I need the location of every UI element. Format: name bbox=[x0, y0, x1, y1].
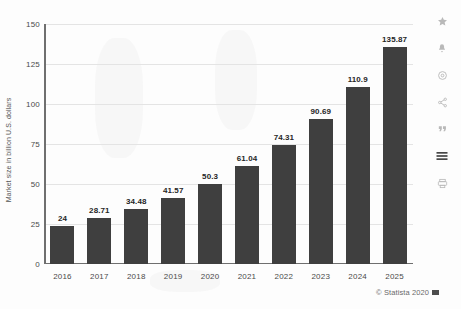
bar[interactable] bbox=[124, 209, 148, 264]
x-tick-label: 2020 bbox=[190, 272, 230, 281]
bar-value-label: 61.04 bbox=[237, 154, 258, 163]
bar-value-label: 90.69 bbox=[311, 107, 332, 116]
bell-icon[interactable] bbox=[431, 39, 453, 57]
chart-toolbar bbox=[427, 12, 457, 192]
bar[interactable] bbox=[161, 198, 185, 265]
bar-slot: 34.48 bbox=[118, 24, 155, 264]
bar[interactable] bbox=[87, 218, 111, 264]
bar-slot: 135.87 bbox=[376, 24, 413, 264]
x-tick-label: 2025 bbox=[375, 272, 415, 281]
x-tick-label: 2016 bbox=[42, 272, 82, 281]
bar-slot: 24 bbox=[44, 24, 81, 264]
bar-value-label: 41.57 bbox=[163, 186, 184, 195]
bar[interactable] bbox=[198, 184, 222, 264]
quote-icon[interactable] bbox=[431, 120, 453, 138]
bar-slot: 61.04 bbox=[229, 24, 266, 264]
bar-value-label: 135.87 bbox=[382, 35, 407, 44]
favorite-icon[interactable] bbox=[431, 12, 453, 30]
bar[interactable] bbox=[346, 87, 370, 264]
x-tick-label: 2019 bbox=[153, 272, 193, 281]
bar[interactable] bbox=[50, 226, 74, 264]
x-tick-label: 2017 bbox=[79, 272, 119, 281]
flag-icon bbox=[432, 290, 439, 295]
bar[interactable] bbox=[235, 166, 259, 264]
bar-value-label: 74.31 bbox=[274, 133, 295, 142]
x-tick-label: 2024 bbox=[338, 272, 378, 281]
bar-slot: 74.31 bbox=[265, 24, 302, 264]
plot-area: 2428.7134.4841.5750.361.0474.3190.69110.… bbox=[44, 24, 413, 264]
share-icon[interactable] bbox=[431, 93, 453, 111]
x-tick-label: 2021 bbox=[227, 272, 267, 281]
bar-value-label: 28.71 bbox=[89, 206, 110, 215]
bar-slot: 50.3 bbox=[192, 24, 229, 264]
bar-value-label: 24 bbox=[58, 214, 67, 223]
list-icon[interactable] bbox=[431, 147, 453, 165]
y-tick-label-125: 125 bbox=[10, 60, 40, 69]
gear-icon[interactable] bbox=[431, 66, 453, 84]
y-tick-label-0: 0 bbox=[10, 260, 40, 269]
bar-slot: 90.69 bbox=[302, 24, 339, 264]
x-tick-label: 2022 bbox=[264, 272, 304, 281]
bar[interactable] bbox=[272, 145, 296, 264]
y-tick-label-150: 150 bbox=[10, 20, 40, 29]
x-tick-label: 2018 bbox=[116, 272, 156, 281]
bar-value-label: 50.3 bbox=[202, 172, 218, 181]
y-tick-label-100: 100 bbox=[10, 100, 40, 109]
y-tick-label-75: 75 bbox=[10, 140, 40, 149]
statista-credit-text: © Statista 2020 bbox=[376, 288, 429, 297]
x-tick-label: 2023 bbox=[301, 272, 341, 281]
bar-value-label: 110.9 bbox=[348, 75, 368, 84]
bar-slot: 110.9 bbox=[339, 24, 376, 264]
bar-value-label: 34.48 bbox=[126, 197, 147, 206]
bar-slot: 28.71 bbox=[81, 24, 118, 264]
statista-chart-screenshot: Market size in billion U.S. dollars 0 25… bbox=[0, 0, 461, 309]
bar[interactable] bbox=[309, 119, 333, 264]
bar-slot: 41.57 bbox=[155, 24, 192, 264]
statista-credit: © Statista 2020 bbox=[376, 288, 439, 297]
bar-series: 2428.7134.4841.5750.361.0474.3190.69110.… bbox=[44, 24, 413, 264]
bar[interactable] bbox=[383, 47, 407, 264]
y-tick-label-50: 50 bbox=[10, 180, 40, 189]
y-tick-label-25: 25 bbox=[10, 220, 40, 229]
print-icon[interactable] bbox=[431, 174, 453, 192]
